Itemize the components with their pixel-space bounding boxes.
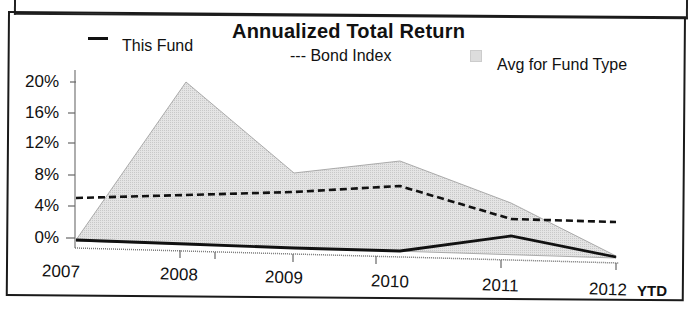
y-tick-0: 0% <box>14 228 59 248</box>
y-tick-20: 20% <box>14 72 59 92</box>
x-tick-2012: 2012 <box>589 279 628 300</box>
x-tick-ytd: YTD <box>637 282 667 299</box>
y-tick-4: 4% <box>14 196 59 216</box>
x-tick-2011: 2011 <box>482 275 519 296</box>
y-tick-16: 16% <box>14 103 59 123</box>
plot-area <box>0 0 693 312</box>
avg-fund-type-area <box>76 82 616 258</box>
y-tick-8: 8% <box>14 165 59 185</box>
y-tick-12: 12% <box>14 133 59 153</box>
x-tick-2010: 2010 <box>371 271 410 292</box>
x-tick-2007: 2007 <box>42 261 81 282</box>
x-tick-2008: 2008 <box>160 264 199 285</box>
x-tick-2009: 2009 <box>265 267 304 288</box>
